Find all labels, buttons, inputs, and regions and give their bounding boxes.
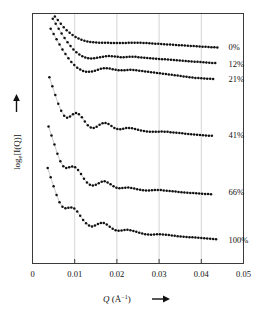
series-label-21pct: 21% xyxy=(229,74,245,84)
data-point xyxy=(178,44,181,47)
data-point xyxy=(145,42,148,45)
data-point xyxy=(50,134,53,137)
data-point xyxy=(168,234,171,237)
data-point xyxy=(179,235,182,238)
data-point xyxy=(173,235,176,238)
data-point xyxy=(136,188,139,191)
data-point xyxy=(140,129,143,132)
data-point xyxy=(91,70,94,73)
data-point xyxy=(173,59,176,62)
data-point xyxy=(101,122,104,125)
data-point xyxy=(194,77,197,80)
data-point xyxy=(89,183,92,186)
data-point xyxy=(202,134,205,137)
data-point xyxy=(101,41,104,44)
data-point xyxy=(121,187,124,190)
data-point xyxy=(128,56,131,59)
data-point xyxy=(130,187,133,190)
data-point xyxy=(198,192,201,195)
data-point xyxy=(138,69,141,72)
data-point xyxy=(67,207,70,210)
data-point xyxy=(89,41,92,44)
data-point xyxy=(106,67,109,70)
data-point xyxy=(115,186,118,189)
data-point xyxy=(148,42,151,45)
data-point xyxy=(133,41,136,44)
data-point xyxy=(139,189,142,192)
data-point xyxy=(92,41,95,44)
data-point xyxy=(109,183,112,186)
data-point xyxy=(119,42,122,45)
data-point xyxy=(203,77,206,80)
data-point xyxy=(188,76,191,79)
x-tick-label: 0.01 xyxy=(67,269,82,279)
data-point xyxy=(188,236,191,239)
data-point xyxy=(79,68,82,71)
data-point xyxy=(72,48,75,51)
data-point xyxy=(193,60,196,63)
data-point xyxy=(120,69,123,72)
data-point xyxy=(70,61,73,64)
data-point xyxy=(110,42,113,45)
data-point xyxy=(123,229,126,232)
data-point xyxy=(49,27,52,30)
data-point xyxy=(185,76,188,79)
data-point xyxy=(194,236,197,239)
data-point xyxy=(144,70,147,73)
data-point xyxy=(172,131,175,134)
data-point xyxy=(126,229,129,232)
data-point xyxy=(146,130,149,133)
data-point xyxy=(116,56,119,59)
data-point xyxy=(141,70,144,73)
data-point xyxy=(155,57,158,60)
data-point xyxy=(170,59,173,62)
data-point xyxy=(107,123,110,126)
data-point xyxy=(105,55,108,58)
data-point xyxy=(165,233,168,236)
data-point xyxy=(89,126,92,128)
x-tick-label: 0.05 xyxy=(236,269,251,279)
data-point xyxy=(187,60,190,63)
data-point xyxy=(210,193,213,196)
data-point xyxy=(66,116,69,119)
data-point xyxy=(156,72,159,75)
data-point xyxy=(52,33,55,36)
data-point xyxy=(164,58,167,61)
data-point xyxy=(71,165,74,168)
data-point xyxy=(76,66,79,69)
data-point xyxy=(64,207,67,210)
data-point xyxy=(84,56,87,59)
data-point xyxy=(165,73,168,76)
data-point xyxy=(146,57,149,60)
svg-text:loge[I(Q)]: loge[I(Q)] xyxy=(12,134,23,170)
data-point xyxy=(190,133,193,136)
data-point xyxy=(197,77,200,80)
data-point xyxy=(160,43,163,46)
data-point xyxy=(183,191,186,194)
data-point xyxy=(135,231,138,234)
data-point xyxy=(166,131,169,134)
data-point xyxy=(49,176,52,179)
data-point xyxy=(148,189,151,192)
data-point xyxy=(205,134,208,137)
data-point xyxy=(69,115,72,118)
data-point xyxy=(91,225,94,228)
data-point xyxy=(190,60,193,63)
data-point xyxy=(127,186,130,189)
data-point xyxy=(166,43,169,46)
data-point xyxy=(125,127,128,130)
data-point xyxy=(163,130,166,133)
data-point xyxy=(85,222,88,225)
data-point xyxy=(159,72,162,75)
data-point xyxy=(78,53,81,56)
data-point xyxy=(202,61,205,64)
data-point xyxy=(116,42,119,45)
data-point xyxy=(51,85,54,88)
data-point xyxy=(129,69,132,72)
data-point xyxy=(205,61,208,64)
data-point xyxy=(165,189,168,192)
data-point xyxy=(210,46,213,49)
data-point xyxy=(152,57,155,60)
data-point xyxy=(123,69,126,72)
data-point xyxy=(147,71,150,74)
